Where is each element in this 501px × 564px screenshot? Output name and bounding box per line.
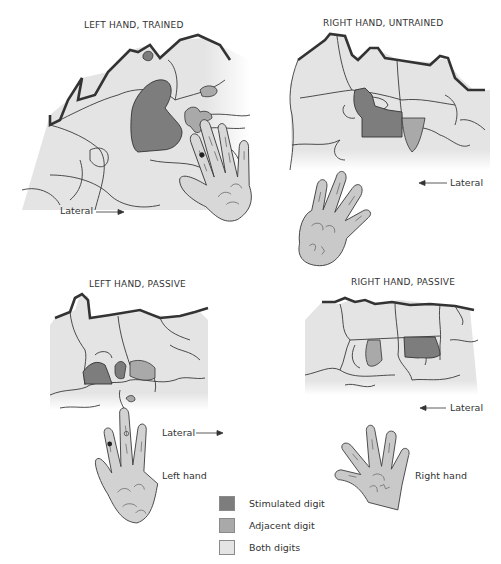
legend-label-adjacent: Adjacent digit [249,520,315,531]
map-right-untrained [290,34,490,170]
hand-illustration-right-passive [332,423,411,511]
legend-item-stimulated: Stimulated digit [219,492,325,514]
hand-illustration-left-passive [88,405,162,528]
legend-item-adjacent: Adjacent digit [219,514,325,536]
legend-label-stimulated: Stimulated digit [249,498,325,509]
lateral-arrow-left-2 [420,406,446,411]
lateral-label-right-untrained: Lateral [450,177,483,188]
legend-swatch-both [219,540,235,555]
map-right-passive [305,298,478,395]
legend: Stimulated digit Adjacent digit Both dig… [219,492,325,558]
lateral-arrow-right-2 [196,431,223,436]
legend-label-both: Both digits [249,542,300,553]
lateral-arrow-right-1 [96,210,124,215]
lateral-label-right-passive: Lateral [450,402,483,413]
hand-label-left: Left hand [162,470,207,481]
legend-swatch-adjacent [219,518,235,533]
lateral-arrow-left-1 [419,181,447,186]
hand-illustration-right-untrained [293,165,378,274]
lateral-label-left-trained: Lateral [60,205,93,216]
lateral-label-left-passive: Lateral [162,427,195,438]
map-left-passive [50,294,208,410]
legend-item-both: Both digits [219,536,325,558]
hand-label-right: Right hand [415,470,467,481]
legend-swatch-stimulated [219,496,235,511]
